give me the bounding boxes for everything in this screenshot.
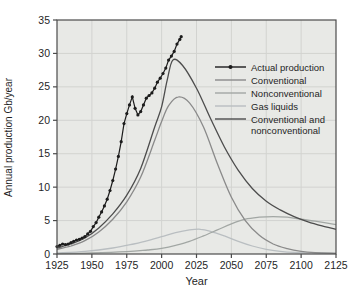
x-tick-label: 1975 bbox=[115, 259, 139, 271]
series-marker-actual-production bbox=[145, 97, 148, 100]
chart-canvas: 0510152025303519251950197520002025205020… bbox=[0, 0, 364, 299]
series-marker-actual-production bbox=[131, 95, 134, 98]
series-marker-actual-production bbox=[100, 210, 103, 213]
x-tick-label: 2050 bbox=[220, 259, 244, 271]
series-marker-actual-production bbox=[178, 38, 181, 41]
series-marker-actual-production bbox=[86, 232, 89, 235]
series-marker-actual-production bbox=[175, 43, 178, 46]
x-tick-label: 2100 bbox=[289, 259, 313, 271]
y-tick-label: 35 bbox=[38, 14, 50, 26]
series-marker-actual-production bbox=[58, 244, 61, 247]
series-marker-actual-production bbox=[75, 238, 78, 241]
series-marker-actual-production bbox=[173, 50, 176, 53]
y-tick-label: 30 bbox=[38, 47, 50, 59]
x-tick-label: 1950 bbox=[80, 259, 104, 271]
series-marker-actual-production bbox=[114, 168, 117, 171]
series-marker-actual-production bbox=[64, 243, 67, 246]
y-tick-label: 25 bbox=[38, 80, 50, 92]
y-tick-label: 0 bbox=[44, 248, 50, 260]
legend-label-conventional: Conventional bbox=[251, 75, 306, 86]
series-marker-actual-production bbox=[150, 91, 153, 94]
series-marker-actual-production bbox=[128, 103, 131, 106]
series-marker-actual-production bbox=[122, 122, 125, 125]
legend-label-conventional-and-nonconventional: nonconventional bbox=[251, 125, 320, 136]
y-tick-label: 10 bbox=[38, 181, 50, 193]
series-marker-actual-production bbox=[78, 238, 81, 241]
x-tick-label: 2000 bbox=[150, 259, 174, 271]
series-marker-actual-production bbox=[103, 204, 106, 207]
x-tick-label: 2075 bbox=[255, 259, 279, 271]
y-tick-label: 5 bbox=[44, 214, 50, 226]
legend-label-conventional-and-nonconventional: Conventional and bbox=[251, 114, 325, 125]
series-marker-actual-production bbox=[139, 110, 142, 113]
y-tick-label: 15 bbox=[38, 147, 50, 159]
series-marker-actual-production bbox=[153, 87, 156, 90]
legend-label-gas-liquids: Gas liquids bbox=[251, 101, 298, 112]
legend-label-nonconventional: Nonconventional bbox=[251, 88, 322, 99]
series-marker-actual-production bbox=[142, 103, 145, 106]
x-tick-label: 1925 bbox=[45, 259, 69, 271]
x-axis-title: Year bbox=[57, 275, 336, 287]
y-axis-title: Annual production Gb/year bbox=[3, 20, 14, 255]
series-marker-actual-production bbox=[106, 198, 109, 201]
series-marker-actual-production bbox=[125, 112, 128, 115]
series-marker-actual-production bbox=[111, 179, 114, 182]
x-tick-label: 2025 bbox=[185, 259, 209, 271]
series-marker-actual-production bbox=[167, 59, 170, 62]
legend-marker-actual-production bbox=[229, 65, 233, 69]
legend-label-actual-production: Actual production bbox=[251, 62, 324, 73]
series-marker-actual-production bbox=[120, 140, 123, 143]
series-marker-actual-production bbox=[108, 189, 111, 192]
series-marker-actual-production bbox=[72, 240, 75, 243]
y-tick-label: 20 bbox=[38, 114, 50, 126]
series-marker-actual-production bbox=[156, 81, 159, 84]
series-marker-actual-production bbox=[170, 55, 173, 58]
series-marker-actual-production bbox=[161, 72, 164, 75]
series-marker-actual-production bbox=[97, 216, 100, 219]
series-marker-actual-production bbox=[92, 225, 95, 228]
series-marker-actual-production bbox=[159, 77, 162, 80]
series-marker-actual-production bbox=[81, 236, 84, 239]
series-marker-actual-production bbox=[61, 242, 64, 245]
series-marker-actual-production bbox=[180, 35, 183, 38]
series-marker-actual-production bbox=[117, 155, 120, 158]
series-marker-actual-production bbox=[134, 107, 137, 110]
x-tick-label: 2125 bbox=[324, 259, 348, 271]
series-marker-actual-production bbox=[164, 67, 167, 70]
series-marker-actual-production bbox=[95, 221, 98, 224]
series-marker-actual-production bbox=[89, 230, 92, 233]
series-marker-actual-production bbox=[83, 235, 86, 238]
series-marker-actual-production bbox=[148, 94, 151, 97]
oil-production-figure: 0510152025303519251950197520002025205020… bbox=[0, 0, 364, 299]
series-marker-actual-production bbox=[136, 113, 139, 116]
series-marker-actual-production bbox=[67, 242, 70, 245]
